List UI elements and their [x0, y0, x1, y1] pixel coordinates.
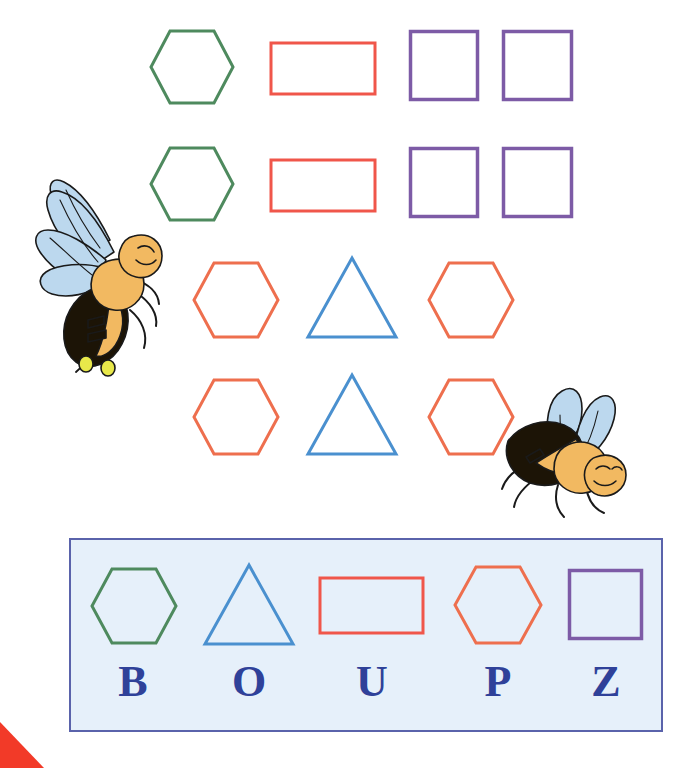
square-row1-purple-a	[408, 29, 482, 104]
square-row2-purple-a	[408, 146, 482, 221]
hexagon-row4-orange-a	[190, 377, 282, 457]
legend-letter-Z: Z	[576, 660, 636, 704]
bee-illustration-left	[18, 168, 168, 383]
worksheet-page: B O U P Z	[0, 0, 689, 768]
legend-rectangle-red	[318, 576, 426, 636]
shape-letter-key-panel: B O U P Z	[69, 538, 663, 732]
red-corner-wedge	[0, 716, 46, 768]
legend-letter-P: P	[468, 660, 528, 704]
rectangle-row2-red	[269, 158, 379, 216]
legend-letter-B: B	[103, 660, 163, 704]
hexagon-row3-orange-a	[190, 260, 282, 340]
legend-letter-O: O	[219, 660, 279, 704]
legend-square-purple	[567, 568, 645, 642]
triangle-row3-blue	[305, 255, 399, 341]
legend-hexagon-green	[88, 566, 180, 646]
legend-triangle-blue	[202, 562, 296, 648]
bee-illustration-right	[482, 385, 632, 523]
hexagon-row3-orange-b	[425, 260, 517, 340]
legend-hexagon-orange	[451, 564, 545, 646]
square-row2-purple-b	[501, 146, 576, 221]
legend-letter-U: U	[342, 660, 402, 704]
hexagon-row1-green	[148, 28, 236, 106]
square-row1-purple-b	[501, 29, 576, 104]
triangle-row4-blue	[305, 372, 399, 458]
rectangle-row1-red	[269, 41, 379, 99]
